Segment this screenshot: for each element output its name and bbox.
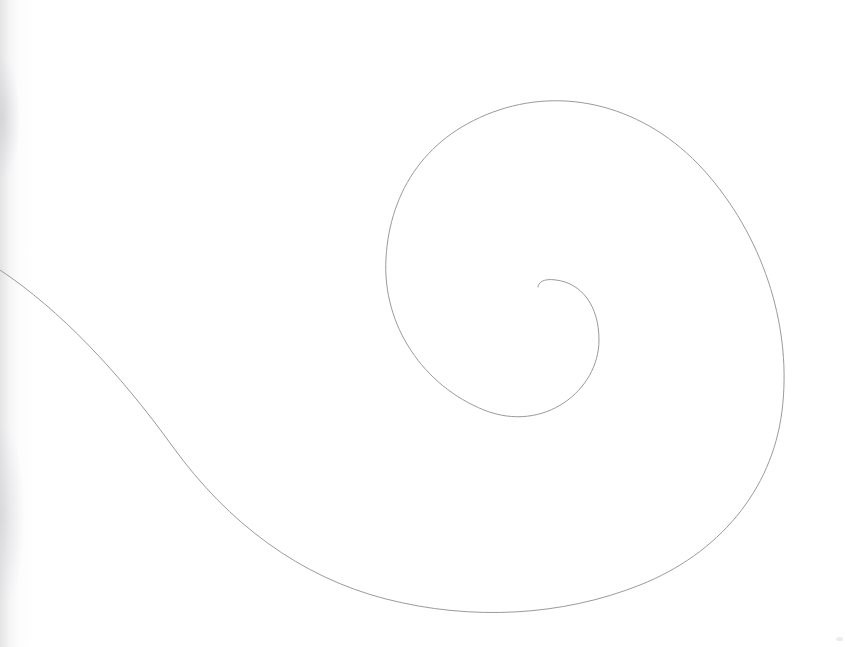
drawing-canvas [0, 0, 845, 647]
spiral-drawing [0, 0, 845, 647]
spiral-curve [0, 101, 784, 613]
